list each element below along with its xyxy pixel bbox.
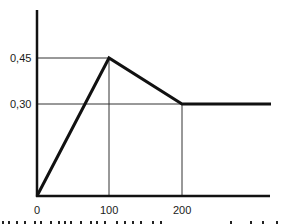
data-line: [37, 58, 271, 196]
x-tick-200: 200: [173, 204, 191, 216]
x-tick-0: 0: [34, 204, 40, 216]
y-tick-045: 0,45: [10, 52, 31, 64]
clipped-caption: [2, 221, 278, 224]
x-tick-100: 100: [100, 204, 118, 216]
chart: 0,45 0,30 0 100 200: [0, 0, 281, 224]
y-tick-030: 0,30: [10, 98, 31, 110]
